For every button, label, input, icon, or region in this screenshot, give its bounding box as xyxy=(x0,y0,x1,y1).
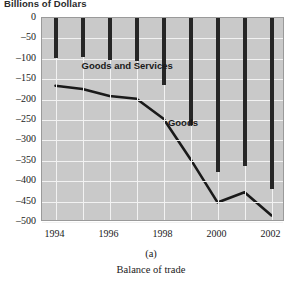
y-axis-tick-label: –200 xyxy=(0,94,36,104)
y-axis-tick-label: –150 xyxy=(0,73,36,83)
gridline-horizontal xyxy=(42,100,283,101)
series-annotation-goods: Goods xyxy=(168,117,198,128)
gridline-horizontal xyxy=(42,120,283,121)
y-axis-tick-label: –350 xyxy=(0,155,36,165)
plot-area xyxy=(41,17,284,221)
bar-goods-and-services xyxy=(81,18,85,57)
y-axis-tick-label: –100 xyxy=(0,53,36,63)
gridline-horizontal xyxy=(42,161,283,162)
series-annotation-goods-and-services: Goods and Services xyxy=(82,60,173,71)
x-axis-tick-label: 1998 xyxy=(140,229,186,239)
gridline-horizontal xyxy=(42,222,283,223)
bar-goods-and-services xyxy=(135,18,139,61)
y-axis-tick-label: –400 xyxy=(0,175,36,185)
y-axis-tick-label: –500 xyxy=(0,216,36,226)
x-axis-tick-label: 2002 xyxy=(248,229,294,239)
y-axis-tick-label: –300 xyxy=(0,134,36,144)
bar-goods-and-services xyxy=(270,18,274,189)
y-axis-tick-label: –250 xyxy=(0,114,36,124)
gridline-horizontal xyxy=(42,181,283,182)
bar-goods-and-services xyxy=(243,18,247,166)
y-axis-tick-label: –450 xyxy=(0,196,36,206)
figure-caption-label: (a) xyxy=(0,248,302,259)
y-axis-title: Billions of Dollars xyxy=(4,0,87,9)
bar-goods-and-services xyxy=(162,18,166,85)
bar-goods-and-services xyxy=(189,18,193,125)
bar-goods-and-services xyxy=(54,18,58,58)
y-axis-tick-label: 0 xyxy=(0,12,36,22)
bar-goods-and-services xyxy=(216,18,220,172)
figure-caption-text: Balance of trade xyxy=(0,264,302,275)
chart-figure: Billions of Dollars (a) Balance of trade… xyxy=(0,0,302,287)
gridline-horizontal xyxy=(42,140,283,141)
x-axis-tick-label: 1994 xyxy=(32,229,78,239)
gridline-horizontal xyxy=(42,202,283,203)
bar-goods-and-services xyxy=(108,18,112,60)
x-axis-tick-label: 1996 xyxy=(86,229,132,239)
y-axis-tick-label: –50 xyxy=(0,32,36,42)
x-axis-tick-label: 2000 xyxy=(194,229,240,239)
